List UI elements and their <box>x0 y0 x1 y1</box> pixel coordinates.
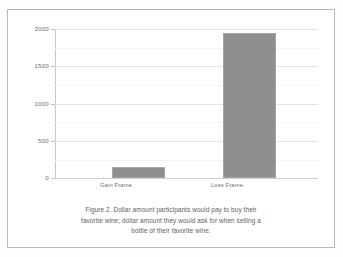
caption-line-3: bottle of their favorite wine. <box>27 226 315 237</box>
gridline-1000 <box>55 104 318 105</box>
figure-root: 2000 1500 1000 500 0 <box>0 0 343 257</box>
y-tick-label-2000: 2000 <box>9 26 49 32</box>
gridline-1750 <box>55 48 318 49</box>
gridline-1250 <box>55 85 318 86</box>
gridline-250 <box>55 160 318 161</box>
y-tick-label-1000: 1000 <box>9 101 49 107</box>
x-tick-label-loss-frame: Loss Frame <box>196 183 258 189</box>
y-tick-label-0: 0 <box>9 175 49 181</box>
bar-chart: 2000 1500 1000 500 0 <box>7 9 335 248</box>
gridline-500 <box>55 141 318 142</box>
gridline-750 <box>55 122 318 123</box>
plot-region <box>55 29 318 178</box>
y-tick-label-1500: 1500 <box>9 63 49 69</box>
gridline-1500 <box>55 66 318 67</box>
gridline-2000 <box>55 29 318 30</box>
figure-caption: Figure 2. Dollar amount participants wou… <box>27 205 315 237</box>
x-axis-line <box>55 178 318 179</box>
bar-gain-frame[interactable] <box>112 167 165 178</box>
bar-loss-frame[interactable] <box>223 33 276 178</box>
caption-line-2: favorite wine; dollar amount they would … <box>27 216 315 227</box>
y-tick-label-500: 500 <box>9 138 49 144</box>
x-tick-label-gain-frame: Gain Frame <box>85 183 147 189</box>
caption-line-1: Figure 2. Dollar amount participants wou… <box>27 205 315 216</box>
